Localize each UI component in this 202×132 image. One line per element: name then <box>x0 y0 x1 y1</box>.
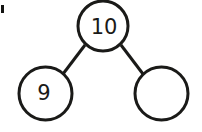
node-whole-value: 10 <box>91 15 118 39</box>
node-part-left-value: 9 <box>37 81 50 105</box>
node-part-right-circle[interactable] <box>135 67 188 120</box>
number-bond-canvas: 10 9 <box>0 0 202 132</box>
scan-edge-mark <box>1 5 4 13</box>
